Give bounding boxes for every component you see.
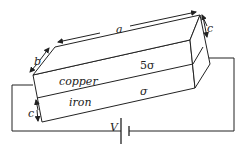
label-a: a xyxy=(116,23,123,36)
label-iron: iron xyxy=(69,96,91,109)
label-b: b xyxy=(34,55,41,68)
label-copper: copper xyxy=(59,75,98,88)
dim-c-left-arrow xyxy=(37,110,38,121)
label-voltage: V xyxy=(110,121,119,134)
label-c-left: c xyxy=(28,107,34,120)
diagram: a b c c copper iron 5σ σ V xyxy=(0,0,242,149)
label-c-top: c xyxy=(207,22,213,35)
label-iron-conductivity: σ xyxy=(140,85,148,98)
label-copper-conductivity: 5σ xyxy=(140,59,155,72)
bimetal-bar-circuit: a b c c copper iron 5σ σ V xyxy=(0,0,242,149)
